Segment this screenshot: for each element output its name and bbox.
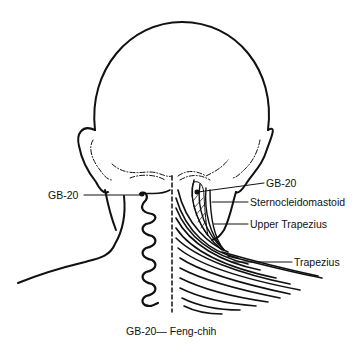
label-upper-trapezius: Upper Trapezius [250, 218, 327, 230]
head-neck-illustration [0, 0, 364, 352]
gb20-left-point [140, 192, 145, 197]
label-trapezius: Trapezius [294, 256, 340, 268]
label-gb20-right: GB-20 [266, 177, 296, 189]
label-sternocleidomastoid: Sternocleidomastoid [250, 196, 345, 208]
left-ear [78, 128, 108, 192]
left-neck-line [105, 190, 116, 230]
diagram-canvas: GB-20 GB-20 Sternocleidomastoid Upper Tr… [0, 0, 364, 352]
leader-gb20-right [198, 183, 264, 192]
spine-squiggle [140, 193, 158, 306]
occipital-ridge [112, 164, 172, 176]
trapezius-fibers [176, 190, 322, 314]
figure-caption: GB-20— Feng-chih [126, 325, 216, 337]
head-outline [94, 22, 269, 130]
label-gb20-left: GB-20 [48, 189, 78, 201]
